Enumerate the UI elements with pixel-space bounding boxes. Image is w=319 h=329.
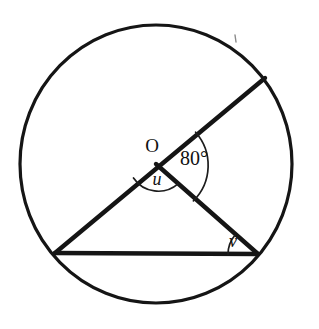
angle-label-80-degrees: 80°: [180, 147, 208, 169]
angle-label-u: u: [153, 169, 162, 189]
centre-label-O: O: [145, 135, 159, 156]
circle-diagram-svg: O 80° u v: [0, 0, 319, 329]
geometry-figure: O 80° u v: [0, 0, 319, 329]
angle-label-v: v: [229, 231, 237, 251]
stray-tick-mark-icon: [235, 35, 236, 42]
